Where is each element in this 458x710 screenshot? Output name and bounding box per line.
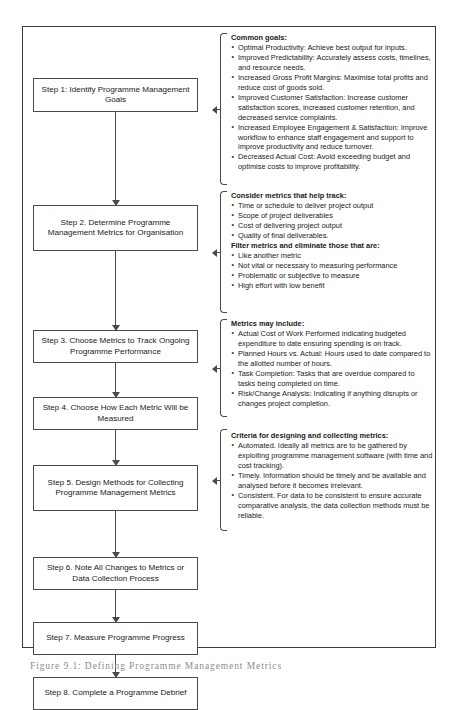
flow-arrow-5-6	[115, 511, 116, 557]
note-4-title: Criteria for designing and collecting me…	[231, 431, 433, 441]
brace-nub-note-1	[213, 109, 220, 110]
flow-step-5-label: Step 5. Design Methods for Collecting Pr…	[38, 478, 193, 499]
flow-step-3[interactable]: Step 3. Choose Metrics to Track Ongoing …	[33, 330, 198, 363]
flow-step-4-label: Step 4. Choose How Each Metric Will be M…	[38, 403, 193, 424]
note-1-item: Decreased Actual Cost: Avoid exceeding b…	[231, 152, 433, 172]
brace-note-1	[220, 33, 227, 185]
note-4-list: Automated. Ideally all metrics are to be…	[231, 441, 433, 521]
flow-arrow-4-5	[115, 430, 116, 465]
flow-step-8[interactable]: Step 8. Complete a Programme Debrief	[33, 677, 198, 710]
figure-frame: Step 1: Identify Programme Management Go…	[22, 26, 436, 648]
note-2-title-secondary: Filter metrics and eliminate those that …	[231, 241, 433, 251]
note-2-list: Time or schedule to deliver project outp…	[231, 201, 433, 241]
note-2-item-secondary: Not vital or necessary to measuring perf…	[231, 261, 433, 271]
note-3-item: Actual Cost of Work Performed indicating…	[231, 329, 433, 349]
flow-step-2[interactable]: Step 2. Determine Programme Management M…	[33, 205, 198, 251]
note-1-title: Common goals:	[231, 33, 433, 43]
note-panel-consider-metrics: Consider metrics that help track: Time o…	[231, 191, 433, 291]
flow-step-2-label: Step 2. Determine Programme Management M…	[38, 218, 193, 239]
note-2-item: Quality of final deliverables.	[231, 231, 433, 241]
flow-arrow-1-2	[115, 112, 116, 205]
note-2-item: Time or schedule to deliver project outp…	[231, 201, 433, 211]
flow-step-3-label: Step 3. Choose Metrics to Track Ongoing …	[38, 336, 193, 357]
brace-nub-note-2	[213, 252, 220, 253]
flow-step-6-label: Step 6. Note All Changes to Metrics or D…	[38, 563, 193, 584]
brace-note-4	[220, 429, 227, 531]
note-1-item: Improved Predictability: Accurately asse…	[231, 53, 433, 73]
note-panel-common-goals: Common goals: Optimal Productivity: Achi…	[231, 33, 433, 172]
note-3-item: Risk/Change Analysis: Indicating if anyt…	[231, 389, 433, 409]
note-3-item: Task Completion: Tasks that are overdue …	[231, 369, 433, 389]
note-4-item: Automated. Ideally all metrics are to be…	[231, 441, 433, 471]
flow-step-7[interactable]: Step 7. Measure Programme Progress	[33, 622, 198, 655]
note-2-item-secondary: High effort with low benefit	[231, 281, 433, 291]
flow-arrow-6-7	[115, 590, 116, 622]
figure-caption: Figure 9.1: Defining Programme Managemen…	[30, 661, 430, 671]
flow-step-1-label: Step 1: Identify Programme Management Go…	[38, 85, 193, 106]
brace-note-2	[220, 191, 227, 313]
note-1-item: Increased Employee Engagement & Satisfac…	[231, 123, 433, 153]
note-panel-criteria: Criteria for designing and collecting me…	[231, 431, 433, 521]
note-3-item: Planned Hours vs. Actual: Hours used to …	[231, 349, 433, 369]
flow-step-8-label: Step 8. Complete a Programme Debrief	[44, 688, 186, 698]
note-4-item: Timely. Information should be timely and…	[231, 471, 433, 491]
note-2-title: Consider metrics that help track:	[231, 191, 433, 201]
note-1-item: Optimal Productivity: Achieve best outpu…	[231, 43, 433, 53]
flow-step-1[interactable]: Step 1: Identify Programme Management Go…	[33, 78, 198, 112]
note-panel-metrics-may-include: Metrics may include: Actual Cost of Work…	[231, 319, 433, 409]
brace-note-3	[220, 319, 227, 417]
note-2-item-secondary: Problematic or subjective to measure	[231, 271, 433, 281]
note-1-item: Improved Customer Satisfaction: Increase…	[231, 93, 433, 123]
flow-step-5[interactable]: Step 5. Design Methods for Collecting Pr…	[33, 465, 198, 511]
flow-arrow-3-4	[115, 363, 116, 397]
note-2-item-secondary: Like another metric	[231, 251, 433, 261]
note-2-item: Scope of project deliverables	[231, 211, 433, 221]
flowchart-column: Step 1: Identify Programme Management Go…	[33, 27, 218, 647]
note-4-item: Consistent. For data to be consistent to…	[231, 491, 433, 521]
brace-nub-note-4	[213, 480, 220, 481]
flow-arrow-2-3	[115, 251, 116, 330]
note-2-item: Cost of delivering project output	[231, 221, 433, 231]
note-2-list-secondary: Like another metric Not vital or necessa…	[231, 251, 433, 291]
flow-step-4[interactable]: Step 4. Choose How Each Metric Will be M…	[33, 397, 198, 430]
note-3-title: Metrics may include:	[231, 319, 433, 329]
flow-step-6[interactable]: Step 6. Note All Changes to Metrics or D…	[33, 557, 198, 590]
note-1-list: Optimal Productivity: Achieve best outpu…	[231, 43, 433, 172]
note-1-item: Increased Gross Profit Margins: Maximise…	[231, 73, 433, 93]
flow-step-7-label: Step 7. Measure Programme Progress	[46, 633, 185, 643]
brace-nub-note-3	[213, 368, 220, 369]
note-3-list: Actual Cost of Work Performed indicating…	[231, 329, 433, 409]
